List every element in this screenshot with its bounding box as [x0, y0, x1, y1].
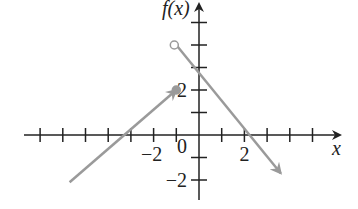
- svg-text:−2: −2: [141, 143, 162, 165]
- svg-text:x: x: [331, 137, 341, 159]
- svg-text:2: 2: [177, 79, 187, 101]
- graph: −222−20xf(x): [0, 0, 358, 209]
- svg-text:f(x): f(x): [162, 0, 190, 20]
- open-endpoint-icon: [170, 41, 178, 49]
- svg-text:2: 2: [239, 143, 249, 165]
- function-plot: −222−20xf(x): [0, 0, 358, 209]
- svg-text:0: 0: [177, 135, 187, 157]
- svg-text:−2: −2: [166, 169, 187, 191]
- series-line: [176, 45, 280, 173]
